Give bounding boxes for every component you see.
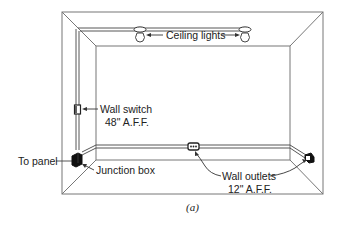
arrow-up-left-icon	[195, 151, 199, 156]
junction-box-callout: Junction box	[82, 164, 156, 176]
to-panel-callout: To panel	[18, 155, 58, 167]
wall-outlet-2	[305, 153, 314, 163]
arrow-right-icon	[235, 33, 240, 37]
arrow-left-icon	[82, 107, 87, 111]
figure-caption: (a)	[186, 201, 199, 214]
wall-outlets-height-label: 12" A.F.F.	[228, 183, 272, 195]
ceiling-lights-label: Ceiling lights	[166, 29, 226, 41]
wall-switch-label: Wall switch	[100, 103, 152, 115]
wall-outlet-1	[188, 143, 199, 150]
to-panel-label: To panel	[18, 155, 58, 167]
conduit-runs	[56, 28, 306, 161]
wall-switch-height-label: 48" A.F.F.	[105, 116, 149, 128]
corner-top-right	[290, 12, 323, 46]
ceiling-light-1	[134, 27, 146, 42]
arrow-left-icon	[146, 33, 151, 37]
junction-box-label: Junction box	[96, 164, 156, 176]
room-wiring-diagram: Ceiling lights Wall switch 48" A.F.F. To…	[0, 0, 340, 229]
wall-outlets-label: Wall outlets	[222, 170, 276, 182]
junction-box	[72, 153, 82, 167]
wall-switch-callout: Wall switch 48" A.F.F.	[82, 103, 152, 128]
ceiling-light-2	[239, 27, 251, 42]
wall-switch	[75, 105, 81, 114]
corner-bottom-right	[290, 160, 323, 194]
